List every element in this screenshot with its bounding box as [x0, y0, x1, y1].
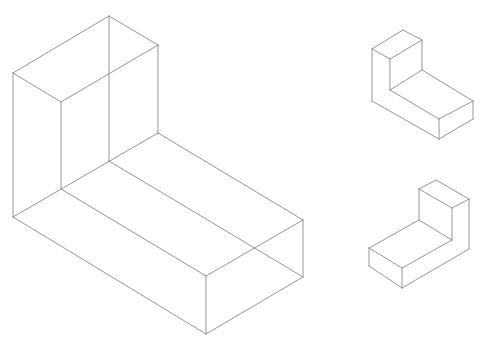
small-l-block-bottom-figure [369, 180, 469, 288]
edge-line [419, 180, 436, 189]
isometric-drawing-canvas [0, 0, 482, 344]
edge-line [13, 217, 206, 334]
edge-line [61, 45, 158, 102]
edge-line [206, 277, 303, 334]
edge-line [390, 90, 439, 119]
edge-line [13, 16, 109, 73]
edge-line [109, 16, 158, 45]
edge-line [419, 189, 452, 208]
edge-line [206, 220, 303, 276]
edge-line [372, 101, 439, 139]
edge-line [158, 133, 303, 220]
edge-line [390, 70, 422, 90]
edge-line [439, 119, 473, 139]
edge-line [13, 133, 158, 217]
small-l-block-top-figure [372, 30, 473, 139]
edge-line [439, 101, 473, 119]
edge-line [422, 70, 473, 101]
edge-line [372, 30, 403, 49]
edge-line [372, 49, 390, 59]
edge-line [369, 248, 402, 268]
edge-line [452, 199, 469, 208]
edge-line [419, 220, 452, 240]
edge-line [369, 266, 402, 288]
edge-line [109, 161, 303, 277]
edge-line [402, 240, 452, 268]
edge-line [369, 220, 419, 248]
edge-line [403, 30, 422, 40]
large-l-block-figure [13, 16, 303, 334]
edge-line [436, 180, 469, 199]
edge-line [390, 40, 422, 59]
edge-line [61, 189, 206, 276]
edge-line [13, 73, 61, 102]
edge-line [402, 249, 469, 288]
